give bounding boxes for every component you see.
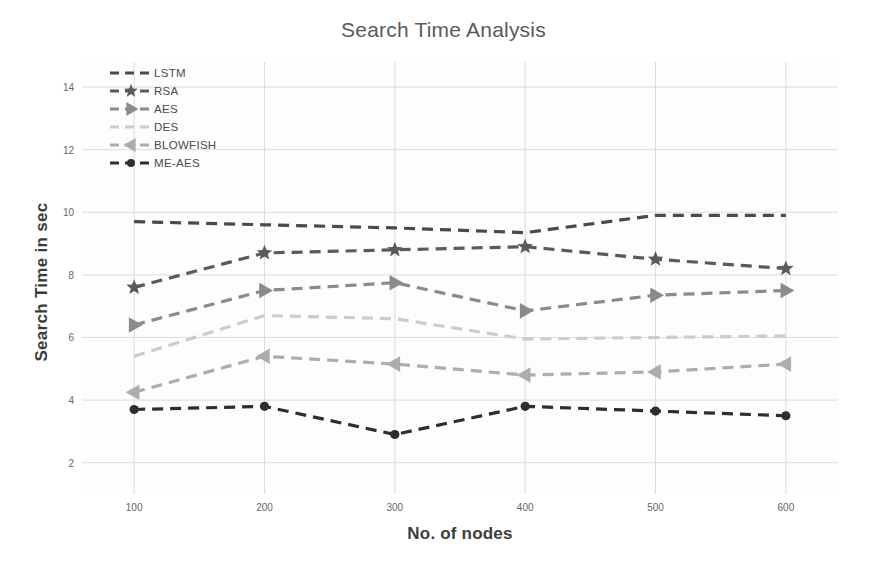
legend-item-blowfish[interactable]: BLOWFISH (108, 136, 318, 154)
x-tick-label: 500 (626, 502, 686, 513)
legend-label: AES (154, 103, 178, 115)
legend-label: BLOWFISH (154, 139, 216, 151)
x-tick-label: 100 (104, 502, 164, 513)
legend-label: DES (154, 121, 179, 133)
y-tick-label: 12 (34, 144, 74, 155)
x-tick-label: 300 (365, 502, 425, 513)
legend-item-rsa[interactable]: RSA (108, 82, 318, 100)
legend-item-des[interactable]: DES (108, 118, 318, 136)
legend-item-me-aes[interactable]: ME-AES (108, 154, 318, 172)
y-tick-label: 4 (34, 395, 74, 406)
legend-marker-blowfish-icon (108, 136, 154, 154)
legend-item-lstm[interactable]: LSTM (108, 64, 318, 82)
x-tick-label: 400 (495, 502, 555, 513)
chart-figure: Search Time Analysis Search Time in sec … (0, 0, 887, 569)
x-tick-label: 200 (234, 502, 294, 513)
y-tick-label: 6 (34, 332, 74, 343)
x-axis-ticks: 100200300400500600 (82, 494, 838, 518)
legend-item-aes[interactable]: AES (108, 100, 318, 118)
x-tick-label: 600 (756, 502, 816, 513)
legend-marker-me-aes-icon (108, 154, 154, 172)
chart-title: Search Time Analysis (0, 18, 887, 42)
legend-marker-rsa-icon (108, 82, 154, 100)
chart-legend: LSTMRSAAESDESBLOWFISHME-AES (108, 64, 318, 172)
x-axis-label: No. of nodes (82, 524, 838, 544)
y-tick-label: 2 (34, 457, 74, 468)
legend-label: LSTM (154, 67, 186, 79)
y-tick-label: 8 (34, 269, 74, 280)
legend-marker-aes-icon (108, 100, 154, 118)
legend-label: ME-AES (154, 157, 200, 169)
y-axis-ticks: 2468101214 (32, 62, 82, 494)
legend-marker-des-icon (108, 118, 154, 136)
y-tick-label: 14 (34, 82, 74, 93)
y-tick-label: 10 (34, 207, 74, 218)
legend-label: RSA (154, 85, 179, 97)
legend-marker-lstm-icon (108, 64, 154, 82)
